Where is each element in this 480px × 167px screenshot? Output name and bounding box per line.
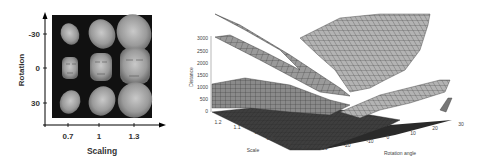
face-image	[62, 57, 78, 79]
left-panel: -30 0 30 Rotation 0.7 1 1.3 Scaling	[17, 9, 166, 156]
scale-tick-label: 0.9	[267, 135, 274, 141]
rotation-tick-label: 20	[432, 125, 438, 131]
scale-tick-label: 1	[255, 129, 258, 135]
z-tick-label: 2000	[197, 60, 208, 66]
right-panel: 3000 2500 2000 1500 1000 500 0 Distance …	[188, 14, 464, 156]
x-tick-label: 1	[97, 132, 102, 141]
rotation-tick-label: 10	[410, 130, 416, 136]
scale-axis-label: Scale	[247, 147, 260, 153]
arrow-right-icon	[159, 123, 166, 128]
z-axis-label: Distance	[188, 67, 194, 87]
y-tick-label: 30	[31, 99, 40, 108]
x-tick-label: 1.3	[128, 132, 140, 141]
x-tick-label: 0.7	[62, 132, 74, 141]
right-fin-surface	[440, 98, 452, 112]
z-tick-label: 500	[200, 96, 209, 102]
rotation-axis-label: Rotation angle	[384, 150, 416, 156]
z-tick-label: 1000	[197, 84, 208, 90]
y-tick-label: -30	[28, 30, 40, 39]
figure: -30 0 30 Rotation 0.7 1 1.3 Scaling 3000…	[0, 0, 480, 167]
rotation-tick-label: -10	[366, 138, 373, 144]
x-axis-label: Scaling	[87, 146, 117, 156]
scale-tick-label: 1.2	[215, 119, 222, 125]
rotation-tick-label: 0	[387, 134, 390, 140]
face-image	[120, 48, 150, 84]
z-tick-label: 1500	[197, 72, 208, 78]
y-axis-label: Rotation	[17, 54, 26, 87]
y-tick-label: 0	[36, 64, 41, 73]
z-tick-label: 2500	[197, 48, 208, 54]
face-image	[90, 53, 112, 81]
rotation-tick-label: -30	[320, 145, 327, 151]
scale-tick-label: 1.1	[234, 124, 241, 130]
z-tick-label: 3000	[197, 35, 208, 41]
rotation-tick-label: -20	[343, 142, 350, 148]
z-tick-label: 0	[205, 108, 208, 114]
scale-tick-label: 0.8	[284, 140, 291, 146]
scale-tick-label: 0.7	[302, 144, 309, 150]
arrow-up-icon	[43, 12, 48, 19]
rotation-tick-label: 30	[458, 121, 464, 127]
